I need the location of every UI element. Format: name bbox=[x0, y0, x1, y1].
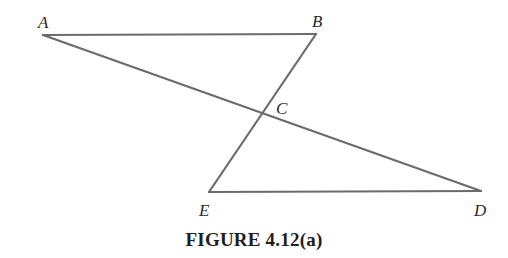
segment-BE bbox=[209, 34, 316, 192]
geometry-figure: A B C E D bbox=[0, 0, 508, 258]
vertex-label-b: B bbox=[312, 12, 323, 31]
segment-ED bbox=[209, 191, 481, 192]
vertex-label-e: E bbox=[198, 201, 210, 220]
vertex-labels: A B C E D bbox=[37, 12, 487, 220]
figure-caption: FIGURE 4.12(a) bbox=[0, 229, 508, 251]
vertex-label-d: D bbox=[473, 201, 487, 220]
figure-segments bbox=[43, 34, 481, 192]
vertex-label-a: A bbox=[37, 13, 49, 32]
segment-AB bbox=[43, 34, 316, 35]
vertex-label-c: C bbox=[276, 99, 288, 118]
